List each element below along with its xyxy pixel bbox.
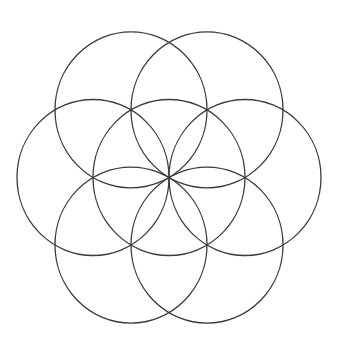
seed-of-life-diagram (0, 0, 340, 346)
circle-group (17, 32, 321, 323)
